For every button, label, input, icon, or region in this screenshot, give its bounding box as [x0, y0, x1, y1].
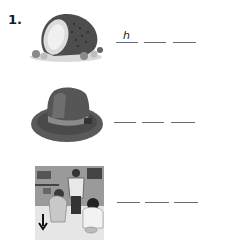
answer-blank[interactable] — [114, 122, 136, 123]
answer-letter: h — [123, 29, 130, 42]
hat-icon — [30, 86, 105, 146]
answer-blank[interactable] — [142, 122, 164, 123]
answer-blank[interactable] — [174, 202, 198, 203]
answer-blank[interactable] — [117, 202, 140, 203]
answer-blank[interactable] — [173, 42, 196, 43]
classroom-photo — [35, 166, 104, 240]
answer-blank[interactable] — [145, 202, 169, 203]
answer-blank[interactable] — [144, 42, 166, 43]
answer-blank[interactable] — [116, 42, 138, 43]
ham-icon — [24, 12, 106, 64]
answer-blank[interactable] — [171, 122, 195, 123]
exercise-number: 1. — [8, 12, 22, 27]
